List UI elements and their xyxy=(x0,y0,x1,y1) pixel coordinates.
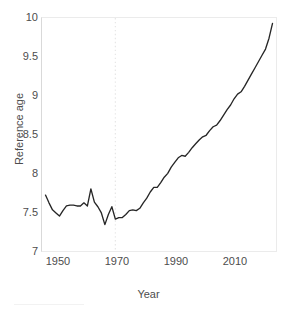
x-axis-tick-group: 1950 1970 1990 2010 xyxy=(0,255,297,271)
x-tick-label-3: 2010 xyxy=(212,255,258,267)
x-axis-title: Year xyxy=(0,288,297,300)
reference-age-line xyxy=(45,23,272,224)
y-axis-title: Reference age xyxy=(13,69,25,189)
footer-rule xyxy=(14,304,84,305)
x-tick-label-0: 1950 xyxy=(35,255,81,267)
x-tick-label-2: 1990 xyxy=(153,255,199,267)
y-tick-label-6: 10 xyxy=(4,12,38,23)
chart-figure: 7 7.5 8 8.5 9 9.5 10 Reference age 1950 … xyxy=(0,0,297,315)
plot-area xyxy=(42,18,276,251)
x-tick-label-1: 1970 xyxy=(94,255,140,267)
y-tick-label-1: 7.5 xyxy=(4,207,38,218)
y-tick-label-5: 9.5 xyxy=(4,51,38,62)
plot-panel xyxy=(41,17,277,252)
